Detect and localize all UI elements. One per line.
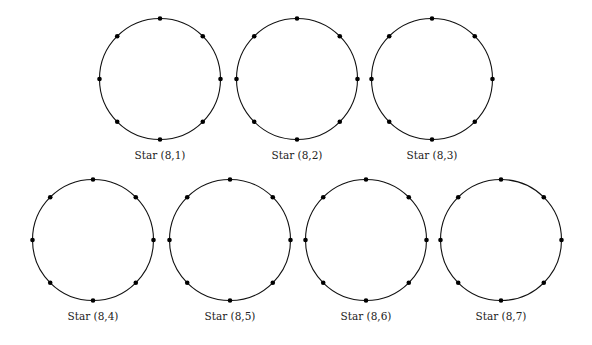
star-panel: Star (8,3): [369, 16, 495, 161]
vertex-dot: [151, 238, 156, 243]
vertex-dot: [185, 280, 190, 285]
vertex-dot: [91, 177, 96, 182]
panel-label: Star (8,5): [205, 310, 256, 322]
vertex-dot: [430, 16, 435, 21]
vertex-dot: [438, 238, 443, 243]
vertex-dot: [406, 280, 411, 285]
vertex-dot: [499, 298, 504, 303]
star-panel: Star (8,6): [303, 177, 429, 322]
vertex-dot: [541, 280, 546, 285]
star-polygon-figure: Star (8,1)Star (8,2)Star (8,3)Star (8,4)…: [0, 0, 592, 345]
vertex-dot: [228, 298, 233, 303]
vertex-dot: [472, 119, 477, 124]
panel-label: Star (8,7): [476, 310, 527, 322]
star-panel: Star (8,7): [438, 177, 564, 322]
vertex-dot: [541, 195, 546, 200]
vertex-dot: [252, 119, 257, 124]
vertex-dot: [295, 16, 300, 21]
vertex-dot: [303, 238, 308, 243]
vertex-dot: [321, 280, 326, 285]
vertex-dot: [200, 34, 205, 39]
vertex-dot: [369, 77, 374, 82]
vertex-dot: [364, 177, 369, 182]
vertex-dot: [91, 298, 96, 303]
vertex-dot: [48, 280, 53, 285]
vertex-dot: [364, 298, 369, 303]
vertex-dot: [321, 195, 326, 200]
vertex-dot: [424, 238, 429, 243]
vertex-dot: [228, 177, 233, 182]
vertex-dot: [288, 238, 293, 243]
panel-label: Star (8,2): [272, 149, 323, 161]
vertex-dot: [158, 137, 163, 142]
vertex-dot: [252, 34, 257, 39]
vertex-dot: [167, 238, 172, 243]
star-panel: Star (8,2): [234, 16, 360, 161]
vertex-dot: [337, 34, 342, 39]
star-panel: Star (8,5): [167, 177, 293, 322]
vertex-dot: [30, 238, 35, 243]
star-panel: Star (8,1): [97, 16, 223, 161]
panel-label: Star (8,6): [341, 310, 392, 322]
vertex-dot: [456, 195, 461, 200]
vertex-dot: [115, 34, 120, 39]
vertex-dot: [387, 34, 392, 39]
vertex-dot: [270, 195, 275, 200]
panel-label: Star (8,1): [135, 149, 186, 161]
vertex-dot: [295, 137, 300, 142]
vertex-dot: [48, 195, 53, 200]
vertex-dot: [559, 238, 564, 243]
vertex-dot: [355, 77, 360, 82]
vertex-dot: [133, 280, 138, 285]
vertex-dot: [456, 280, 461, 285]
vertex-dot: [158, 16, 163, 21]
vertex-dot: [430, 137, 435, 142]
vertex-dot: [472, 34, 477, 39]
vertex-dot: [115, 119, 120, 124]
vertex-dot: [406, 195, 411, 200]
vertex-dot: [200, 119, 205, 124]
panel-label: Star (8,4): [68, 310, 119, 322]
vertex-dot: [234, 77, 239, 82]
vertex-dot: [133, 195, 138, 200]
vertex-dot: [490, 77, 495, 82]
vertex-dot: [499, 177, 504, 182]
vertex-dot: [185, 195, 190, 200]
vertex-dot: [97, 77, 102, 82]
star-panel: Star (8,4): [30, 177, 156, 322]
vertex-dot: [387, 119, 392, 124]
vertex-dot: [337, 119, 342, 124]
vertex-dot: [218, 77, 223, 82]
vertex-dot: [270, 280, 275, 285]
panel-label: Star (8,3): [407, 149, 458, 161]
